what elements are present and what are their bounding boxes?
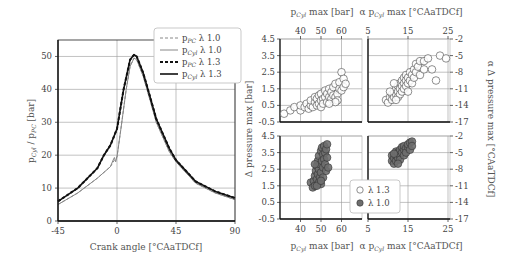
svg-text:5: 5 xyxy=(365,224,370,234)
svg-text:40: 40 xyxy=(41,84,52,94)
left-plot-legend: pPC λ 1.0pCyl λ 1.0pPC λ 1.3pCyl λ 1.3 xyxy=(154,28,241,83)
pressure-trace-plot: -450459001020304050 Crank angle [°CAaTDC… xyxy=(26,28,241,252)
data-point xyxy=(323,141,331,149)
svg-text:25: 25 xyxy=(443,224,454,234)
svg-text:-0.5: -0.5 xyxy=(259,214,275,224)
svg-text:1.5: 1.5 xyxy=(261,84,275,94)
svg-text:50: 50 xyxy=(41,51,52,61)
svg-text:40: 40 xyxy=(295,224,306,234)
scatter-panel-top-left: -0.50.51.52.53.54.5405060 xyxy=(259,26,362,127)
svg-text:-8: -8 xyxy=(455,67,463,77)
svg-text:0.5: 0.5 xyxy=(261,100,275,110)
svg-text:2.5: 2.5 xyxy=(261,67,275,77)
data-point xyxy=(432,77,440,85)
svg-text:-17: -17 xyxy=(455,117,469,127)
svg-text:4.5: 4.5 xyxy=(261,131,275,141)
svg-text:-11: -11 xyxy=(455,84,469,94)
svg-text:0: 0 xyxy=(47,216,52,226)
data-point xyxy=(408,142,416,150)
svg-text:-2: -2 xyxy=(455,131,463,141)
left-plot-ylabel: pCyl / pPC [bar] xyxy=(26,99,38,163)
svg-text:15: 15 xyxy=(403,26,414,36)
svg-text:λ 1.0: λ 1.0 xyxy=(368,198,390,208)
right-panels-left-ylabel: Δ pressure max [bar] xyxy=(244,81,254,178)
svg-text:-8: -8 xyxy=(455,164,463,174)
svg-text:-0.5: -0.5 xyxy=(259,117,275,127)
svg-text:λ 1.3: λ 1.3 xyxy=(368,185,390,195)
svg-text:45: 45 xyxy=(171,226,182,236)
top-left-xlabel: pCyl max [bar] xyxy=(291,7,354,19)
svg-text:60: 60 xyxy=(336,26,347,36)
data-point xyxy=(392,96,400,104)
bottom-right-xlabel: α pCyl max [°CAaTDCf] xyxy=(359,241,462,253)
svg-text:-5: -5 xyxy=(455,51,463,61)
scatter-legend: λ 1.3λ 1.0 xyxy=(350,180,400,213)
data-point xyxy=(428,66,436,74)
scatter-panel-top-right: -2-5-8-11-14-1751525 xyxy=(365,26,468,127)
data-point xyxy=(394,160,402,168)
figure: -450459001020304050 Crank angle [°CAaTDC… xyxy=(0,0,507,265)
svg-text:1.5: 1.5 xyxy=(261,181,275,191)
scatter-panels: -0.50.51.52.53.54.5405060-2-5-8-11-14-17… xyxy=(244,7,496,253)
svg-text:-5: -5 xyxy=(455,148,463,158)
svg-text:10: 10 xyxy=(41,183,52,193)
top-right-xlabel: α pCyl max [°CAaTDCf] xyxy=(359,7,462,19)
svg-text:-14: -14 xyxy=(455,197,469,207)
data-point xyxy=(342,80,350,88)
svg-text:-11: -11 xyxy=(455,181,469,191)
left-plot-xlabel: Crank angle [°CAaTDCf] xyxy=(90,242,202,252)
svg-text:-45: -45 xyxy=(51,226,65,236)
svg-text:2.5: 2.5 xyxy=(261,164,275,174)
svg-text:25: 25 xyxy=(443,26,454,36)
data-point xyxy=(390,80,398,88)
svg-text:40: 40 xyxy=(295,26,306,36)
svg-text:15: 15 xyxy=(403,224,414,234)
svg-text:90: 90 xyxy=(230,226,241,236)
svg-text:-17: -17 xyxy=(455,214,469,224)
data-point xyxy=(324,164,332,172)
svg-text:50: 50 xyxy=(316,26,327,36)
svg-text:-2: -2 xyxy=(455,34,463,44)
svg-text:60: 60 xyxy=(336,224,347,234)
data-point xyxy=(424,55,432,63)
svg-text:50: 50 xyxy=(316,224,327,234)
svg-text:0: 0 xyxy=(114,226,119,236)
data-point xyxy=(442,55,450,63)
svg-text:0.5: 0.5 xyxy=(261,197,275,207)
data-point xyxy=(404,88,412,96)
data-point xyxy=(325,100,333,108)
data-point xyxy=(311,160,319,168)
svg-text:-14: -14 xyxy=(455,100,469,110)
svg-text:3.5: 3.5 xyxy=(261,51,275,61)
data-point xyxy=(323,154,331,162)
data-point xyxy=(317,177,325,185)
svg-text:5: 5 xyxy=(365,26,370,36)
svg-text:20: 20 xyxy=(41,150,52,160)
data-point xyxy=(390,150,398,158)
scatter-panel-bottom-left: -0.50.51.52.53.54.5405060 xyxy=(259,131,362,234)
svg-text:30: 30 xyxy=(41,117,52,127)
data-point xyxy=(386,88,394,96)
data-point xyxy=(420,66,428,74)
right-panels-right-ylabel: α Δ pressure max [°CAaTDCf] xyxy=(486,61,496,198)
svg-text:4.5: 4.5 xyxy=(261,34,275,44)
svg-text:3.5: 3.5 xyxy=(261,148,275,158)
bottom-left-xlabel: pCyl max [bar] xyxy=(291,241,354,253)
